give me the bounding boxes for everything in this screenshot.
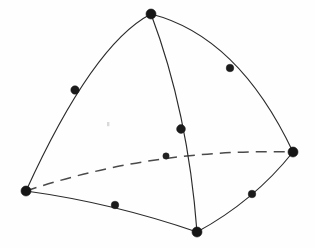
- figure-container: [0, 0, 315, 248]
- node-bottom-right-mid: [248, 190, 256, 198]
- curved-tetrahedron-diagram: [0, 0, 315, 248]
- node-bottom-vertex: [192, 227, 202, 237]
- node-left-bottom-mid: [111, 201, 119, 209]
- node-apex-bottom-mid: [177, 125, 186, 134]
- figure-background: [0, 0, 315, 248]
- node-left-right-hidden-mid: [163, 153, 169, 159]
- node-left-vertex: [21, 186, 31, 196]
- node-apex-right-mid: [226, 64, 234, 72]
- node-apex-left-mid: [71, 86, 79, 94]
- scan-speck-artifact: [107, 122, 109, 126]
- node-right-vertex: [288, 147, 298, 157]
- node-apex-vertex: [146, 9, 156, 19]
